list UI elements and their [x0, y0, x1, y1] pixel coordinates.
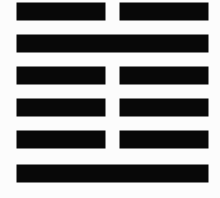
hexagram-line-5 — [17, 131, 208, 148]
hexagram-line-segment-left — [17, 131, 105, 148]
hexagram-line-segment-right — [120, 131, 208, 148]
hexagram-line-gap — [105, 3, 120, 20]
hexagram-line-segment-right — [120, 67, 208, 84]
hexagram-line-4 — [17, 99, 208, 116]
hexagram-line-segment-left — [17, 99, 105, 116]
hexagram-line-segment-right — [120, 3, 208, 20]
hexagram-line-gap — [105, 99, 120, 116]
hexagram-line-segment-left — [17, 67, 105, 84]
hexagram-line-segment-full — [17, 165, 208, 182]
hexagram-line-top — [17, 3, 208, 20]
hexagram-line-segment-full — [17, 35, 208, 52]
hexagram-line-gap — [105, 131, 120, 148]
hexagram-line-segment-left — [17, 3, 105, 20]
hexagram-line-gap — [105, 67, 120, 84]
hexagram-line-2 — [17, 35, 208, 52]
hexagram-line-bottom — [17, 165, 208, 182]
hexagram-line-3 — [17, 67, 208, 84]
hexagram-line-segment-right — [120, 99, 208, 116]
iching-hexagram — [0, 0, 220, 198]
